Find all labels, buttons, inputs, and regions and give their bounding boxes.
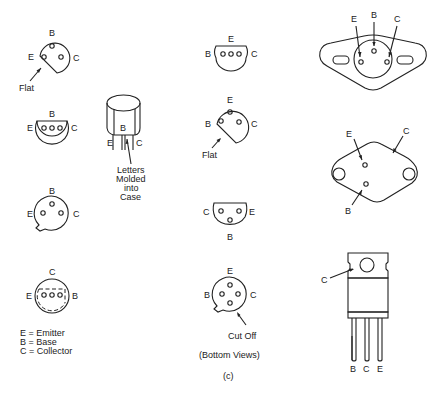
pin-label-e: E (27, 123, 33, 133)
pin-label-b: B (72, 291, 78, 301)
arrow-icon (330, 269, 353, 278)
package-5-inline: E B C (205, 34, 258, 71)
figure-caption: (c) (223, 371, 234, 381)
legend: E = Emitter B = Base C = Collector (20, 328, 72, 356)
pin-label-b: B (227, 232, 233, 242)
package-3-tab: B E C (27, 186, 80, 231)
annotation-cut-off: Cut Off (228, 331, 257, 341)
pin-label-c: C (136, 138, 143, 148)
package-to3: E C B (332, 126, 418, 216)
pin-label-e: E (27, 209, 33, 219)
pin-label-b: B (49, 28, 55, 38)
pin-label-c: C (394, 14, 401, 24)
pin-label-e: E (26, 291, 32, 301)
package-6-flat: E B C Flat (202, 95, 258, 160)
package-7-triangle: C E B (203, 203, 255, 242)
package-1-flat: B E C Flat (19, 28, 80, 93)
pin-label-c: C (203, 207, 210, 217)
pin-label-c: C (251, 119, 258, 129)
pin-label-e: E (28, 52, 34, 62)
pin-label-b: B (371, 10, 377, 20)
package-to66: E B C (320, 10, 427, 90)
pin-label-c: C (403, 126, 410, 136)
package-4-dashed: C E B (26, 267, 78, 313)
package-outline (213, 203, 247, 224)
mounting-hole (360, 258, 374, 272)
package-outline (40, 43, 70, 73)
package-2-inline: B E C (27, 109, 78, 144)
pin-label-e: E (346, 129, 352, 139)
pin-label-c: C (73, 53, 80, 63)
legend-collector: C = Collector (20, 346, 72, 356)
package-outline (35, 279, 69, 313)
pin-label-c: C (49, 267, 56, 277)
package-to92: B E C Letters Molded into Case (107, 95, 146, 202)
annotation-flat: Flat (202, 150, 218, 160)
annotation-flat: Flat (19, 83, 35, 93)
pin-label-e: E (227, 266, 233, 276)
pin-label-b: B (49, 109, 55, 119)
package-8-cutoff: E B C Cut Off (204, 266, 257, 341)
pin-label-c: C (251, 49, 258, 59)
pin-label-e: E (228, 34, 234, 44)
pin-label-b: B (350, 364, 356, 374)
transistor-pinout-diagram: B E C Flat B E C B E C C E B (0, 0, 447, 398)
package-can (354, 40, 392, 78)
package-outline (217, 111, 249, 143)
pin-label-c: C (73, 209, 80, 219)
pin-label-c: C (250, 290, 257, 300)
annotation-line-4: Case (120, 192, 141, 202)
pin-label-e: E (107, 138, 113, 148)
pin-label-e: E (227, 95, 233, 105)
package-outline (215, 46, 248, 71)
pin-label-c: C (71, 123, 78, 133)
pin-label-b: B (120, 123, 126, 133)
pin-label-e: E (249, 207, 255, 217)
package-tab (348, 253, 388, 278)
package-body (348, 278, 388, 312)
pin-label-b: B (49, 186, 55, 196)
pin-label-b: B (205, 49, 211, 59)
pin-label-b: B (345, 206, 351, 216)
pin-label-b: B (204, 290, 210, 300)
pin-label-c: C (363, 364, 370, 374)
pin-label-b: B (205, 119, 211, 129)
package-to220: B C E C (321, 253, 388, 374)
pin-label-e: E (351, 14, 357, 24)
pin-label-tab-c: C (321, 275, 328, 285)
pin-label-e: E (377, 364, 383, 374)
view-note: (Bottom Views) (199, 350, 260, 360)
